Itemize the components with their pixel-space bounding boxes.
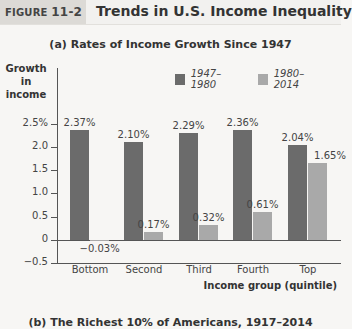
y-tick: [51, 217, 57, 218]
bar-third-1980-2014: [199, 225, 218, 240]
y-tick-label: −0.5: [4, 256, 48, 267]
x-category-label: Top: [281, 264, 335, 275]
panel-a-subtitle: (a) Rates of Income Growth Since 1947: [0, 38, 341, 51]
y-axis-line: [57, 68, 58, 263]
bar-third-1947-1980: [179, 133, 198, 240]
bar-value-label: 0.32%: [189, 212, 229, 223]
bar-bottom-1980-2014: [90, 240, 109, 241]
figure-header: FIGURE 11-2 Trends in U.S. Income Inequa…: [0, 0, 341, 25]
y-tick-label: 1.5: [4, 163, 48, 174]
y-tick-label: 0: [4, 233, 48, 244]
y-tick-label: 1.0: [4, 186, 48, 197]
bar-value-label: 0.17%: [134, 219, 174, 230]
panel-b-subtitle: (b) The Richest 10% of Americans, 1917–2…: [0, 316, 341, 329]
legend-label: 1947–1980: [191, 68, 236, 90]
figure-number: 11-2: [51, 5, 82, 19]
y-tick-label: 2.0: [4, 140, 48, 151]
legend-item-1947-1980: 1947–1980: [175, 68, 236, 90]
bar-second-1980-2014: [144, 232, 163, 240]
legend: 1947–1980 1980–2014: [175, 68, 341, 90]
y-tick: [51, 193, 57, 194]
bar-value-label: 2.36%: [223, 117, 263, 128]
bar-value-label: 2.04%: [278, 132, 318, 143]
bar-value-label: 0.61%: [243, 199, 283, 210]
x-category-label: Fourth: [226, 264, 280, 275]
legend-swatch-dark: [175, 74, 185, 85]
bar-fourth-1980-2014: [253, 212, 272, 240]
x-axis-label: Income group (quintile): [204, 280, 337, 291]
bar-value-label: −0.03%: [80, 243, 120, 254]
legend-label: 1980–2014: [274, 68, 319, 90]
bar-value-label: 2.10%: [114, 129, 154, 140]
bar-value-label: 2.29%: [169, 120, 209, 131]
x-category-label: Third: [172, 264, 226, 275]
bar-top-1947-1980: [288, 145, 307, 240]
y-tick-label: 2.5%: [4, 117, 48, 128]
y-tick: [51, 170, 57, 171]
bar-value-label: 2.37%: [60, 117, 100, 128]
figure-label: FIGURE 11-2: [5, 5, 82, 19]
bar-value-label: 1.65%: [310, 150, 350, 161]
figure-title: Trends in U.S. Income Inequality: [96, 3, 352, 19]
legend-swatch-light: [258, 74, 268, 85]
y-tick-label: 0.5: [4, 210, 48, 221]
legend-item-1980-2014: 1980–2014: [258, 68, 319, 90]
bar-fourth-1947-1980: [233, 130, 252, 240]
y-tick: [51, 124, 57, 125]
figure-label-tab: FIGURE 11-2: [0, 0, 86, 24]
bar-bottom-1947-1980: [70, 130, 89, 240]
bar-top-1980-2014: [308, 163, 327, 240]
figure-label-word: FIGURE: [5, 7, 51, 18]
y-axis-label-line2: income: [2, 88, 50, 101]
y-axis-label-line1: Growth in: [2, 62, 50, 88]
x-category-label: Bottom: [63, 264, 117, 275]
y-axis-label: Growth in income: [2, 62, 50, 101]
y-tick: [51, 147, 57, 148]
x-category-label: Second: [117, 264, 171, 275]
